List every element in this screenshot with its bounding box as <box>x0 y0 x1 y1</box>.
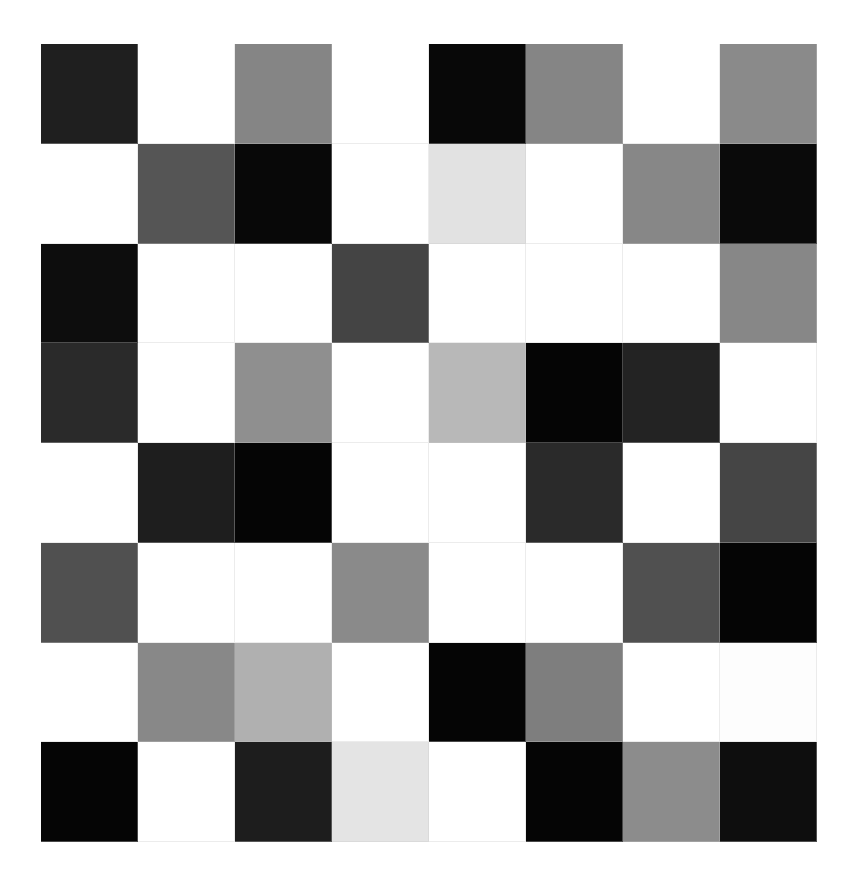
grid-cell-r5-c4 <box>429 543 526 643</box>
grid-cell-r0-c2 <box>235 44 332 144</box>
grid-cell-r3-c4 <box>429 343 526 443</box>
grid-cell-r7-c7 <box>720 742 817 842</box>
grid-cell-r0-c7 <box>720 44 817 144</box>
grid-cell-r1-c1 <box>138 144 235 244</box>
grid-cell-r3-c6 <box>623 343 720 443</box>
grid-cell-r4-c5 <box>526 443 623 543</box>
grid-cell-r2-c1 <box>138 244 235 344</box>
grid-cell-r6-c6 <box>623 643 720 743</box>
grid-cell-r1-c2 <box>235 144 332 244</box>
grid-cell-r1-c6 <box>623 144 720 244</box>
grid-cell-r6-c2 <box>235 643 332 743</box>
grid-cell-r1-c4 <box>429 144 526 244</box>
grid-cell-r0-c4 <box>429 44 526 144</box>
grid-cell-r3-c3 <box>332 343 429 443</box>
grid-cell-r7-c0 <box>41 742 138 842</box>
grid-cell-r0-c1 <box>138 44 235 144</box>
grid-cell-r4-c6 <box>623 443 720 543</box>
grid-cell-r6-c4 <box>429 643 526 743</box>
grid-cell-r5-c6 <box>623 543 720 643</box>
grid-cell-r2-c4 <box>429 244 526 344</box>
grid-cell-r2-c0 <box>41 244 138 344</box>
grid-cell-r4-c2 <box>235 443 332 543</box>
grid-cell-r1-c7 <box>720 144 817 244</box>
grid-cell-r4-c3 <box>332 443 429 543</box>
grid-cell-r6-c0 <box>41 643 138 743</box>
grid-cell-r1-c5 <box>526 144 623 244</box>
grid-cell-r7-c5 <box>526 742 623 842</box>
grid-cell-r3-c0 <box>41 343 138 443</box>
grid-cell-r2-c5 <box>526 244 623 344</box>
grid-cell-r3-c2 <box>235 343 332 443</box>
grid-cell-r5-c7 <box>720 543 817 643</box>
grid-cell-r0-c6 <box>623 44 720 144</box>
grid-cell-r2-c3 <box>332 244 429 344</box>
grid-cell-r0-c0 <box>41 44 138 144</box>
grid-cell-r2-c6 <box>623 244 720 344</box>
grid-cell-r2-c7 <box>720 244 817 344</box>
grid-cell-r3-c7 <box>720 343 817 443</box>
grid-cell-r3-c5 <box>526 343 623 443</box>
grid-cell-r4-c1 <box>138 443 235 543</box>
grid-cell-r5-c3 <box>332 543 429 643</box>
grid-cell-r5-c5 <box>526 543 623 643</box>
grid-cell-r1-c0 <box>41 144 138 244</box>
grid-cell-r5-c0 <box>41 543 138 643</box>
grid-cell-r4-c4 <box>429 443 526 543</box>
grid-cell-r4-c7 <box>720 443 817 543</box>
grid-cell-r7-c1 <box>138 742 235 842</box>
grid-cell-r6-c3 <box>332 643 429 743</box>
grid-cell-r7-c3 <box>332 742 429 842</box>
grid-cell-r6-c1 <box>138 643 235 743</box>
grid-cell-r7-c4 <box>429 742 526 842</box>
grid-cell-r4-c0 <box>41 443 138 543</box>
grid-cell-r7-c2 <box>235 742 332 842</box>
grid-cell-r0-c3 <box>332 44 429 144</box>
grid-cell-r7-c6 <box>623 742 720 842</box>
grid-cell-r2-c2 <box>235 244 332 344</box>
grid-cell-r5-c2 <box>235 543 332 643</box>
grayscale-grid <box>41 44 817 842</box>
grid-cell-r6-c7 <box>720 643 817 743</box>
grid-cell-r0-c5 <box>526 44 623 144</box>
grid-cell-r3-c1 <box>138 343 235 443</box>
grid-cell-r5-c1 <box>138 543 235 643</box>
grid-cell-r1-c3 <box>332 144 429 244</box>
grid-cell-r6-c5 <box>526 643 623 743</box>
